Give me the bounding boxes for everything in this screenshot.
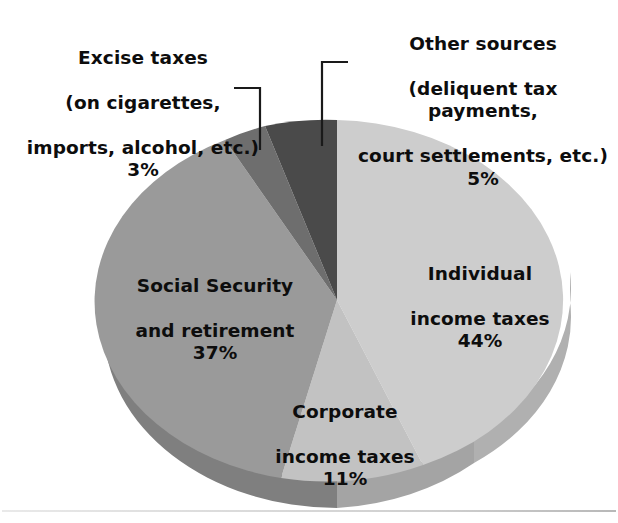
- slice-value-other: 5%: [352, 168, 614, 191]
- slice-value-excise: 3%: [18, 159, 268, 182]
- slice-label-other-line1: Other sources: [409, 33, 557, 54]
- slice-value-social: 37%: [112, 342, 318, 365]
- page-footer-rule: [2, 510, 616, 512]
- slice-label-other: Other sources (deliquent tax payments, c…: [352, 10, 614, 213]
- slice-label-excise: Excise taxes (on cigarettes, imports, al…: [18, 24, 268, 205]
- slice-label-social-line2: and retirement: [135, 320, 294, 341]
- slice-label-individual: Individual income taxes 44%: [392, 240, 568, 375]
- slice-label-other-line2: (deliquent tax payments,: [408, 78, 557, 122]
- slice-label-corporate: Corporate income taxes 11%: [250, 378, 440, 513]
- slice-label-excise-line1: Excise taxes: [78, 47, 208, 68]
- slice-label-excise-line3: imports, alcohol, etc.): [27, 137, 259, 158]
- slice-label-individual-line2: income taxes: [410, 308, 549, 329]
- slice-label-social: Social Security and retirement 37%: [112, 252, 318, 387]
- slice-label-corporate-line1: Corporate: [292, 401, 397, 422]
- slice-label-corporate-line2: income taxes: [275, 446, 414, 467]
- slice-label-individual-line1: Individual: [428, 263, 532, 284]
- pie-chart-figure: Excise taxes (on cigarettes, imports, al…: [0, 0, 618, 523]
- slice-value-corporate: 11%: [250, 468, 440, 491]
- slice-value-individual: 44%: [392, 330, 568, 353]
- slice-label-excise-line2: (on cigarettes,: [65, 92, 220, 113]
- slice-label-other-line3: court settlements, etc.): [358, 145, 608, 166]
- slice-label-social-line1: Social Security: [137, 275, 293, 296]
